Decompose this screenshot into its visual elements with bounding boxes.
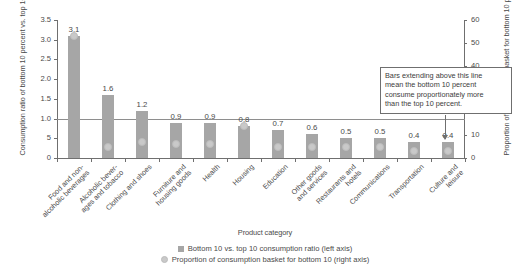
annotation-callout: Bars extending above this line mean the …: [380, 67, 512, 114]
y-axis-left-title-text: Consumption ratio of bottom 10 percent v…: [18, 0, 27, 156]
y-left-tick-label: 1.5: [29, 94, 51, 103]
x-axis-category-label: Housing: [189, 163, 256, 230]
data-point-dot: [240, 122, 248, 130]
y-right-tick: [464, 43, 467, 44]
y-left-tick: [54, 59, 57, 60]
bar-value-label: 0.4: [434, 131, 462, 140]
bar-value-label: 1.2: [128, 100, 156, 109]
y-left-tick-label: 0: [29, 153, 51, 162]
y-right-tick-label: 10: [471, 130, 493, 139]
x-axis-tick: [159, 159, 160, 162]
bar-value-label: 0.5: [332, 127, 360, 136]
x-axis-tick: [431, 159, 432, 162]
legend-label-dots: Proportion of consumption basket for bot…: [172, 255, 370, 264]
bar-value-label: 0.9: [162, 112, 190, 121]
data-point-dot: [274, 143, 282, 151]
x-axis-tick: [363, 159, 364, 162]
x-axis-tick: [295, 159, 296, 162]
x-axis-tick: [465, 159, 466, 162]
y-left-tick: [54, 99, 57, 100]
bar-value-label: 0.9: [196, 112, 224, 121]
legend-square-icon: [178, 246, 184, 252]
bar: [68, 36, 80, 158]
chart-legend: Bottom 10 vs. top 10 consumption ratio (…: [0, 243, 530, 265]
x-axis-tick: [329, 159, 330, 162]
y-left-tick: [54, 138, 57, 139]
y-left-tick-label: 2.0: [29, 74, 51, 83]
legend-label-bars: Bottom 10 vs. top 10 consumption ratio (…: [188, 244, 353, 253]
x-axis-tick: [91, 159, 92, 162]
y-right-tick: [464, 135, 467, 136]
legend-item-bars: Bottom 10 vs. top 10 consumption ratio (…: [0, 243, 530, 254]
y-axis-left-title: Consumption ratio of bottom 10 percent v…: [18, 6, 27, 156]
y-left-tick: [54, 79, 57, 80]
plot-area: 051.01.52.02.53.03.5 0102030405060 3.11.…: [57, 20, 465, 158]
y-left-tick: [54, 40, 57, 41]
y-left-tick-label: 5: [29, 133, 51, 142]
x-axis-tick: [125, 159, 126, 162]
y-right-tick-label: 60: [471, 15, 493, 24]
y-left-tick-label: 1.0: [29, 114, 51, 123]
legend-item-dots: Proportion of consumption basket for bot…: [0, 254, 530, 265]
bar-value-label: 0.6: [298, 123, 326, 132]
y-left-tick-label: 3.0: [29, 35, 51, 44]
x-axis-tick: [397, 159, 398, 162]
x-axis-category-label: Culture and leisure: [393, 163, 466, 236]
bar: [136, 111, 148, 158]
bar-value-label: 0.7: [264, 119, 292, 128]
annotation-line-4: than the top 10 percent.: [385, 99, 507, 108]
y-right-tick-label: 0: [471, 153, 493, 162]
y-left-tick-label: 2.5: [29, 54, 51, 63]
data-point-dot: [138, 138, 146, 146]
y-right-tick: [464, 20, 467, 21]
x-axis-tick: [227, 159, 228, 162]
y-left-tick: [54, 20, 57, 21]
data-point-dot: [342, 143, 350, 151]
annotation-line-1: Bars extending above this line: [385, 71, 507, 80]
annotation-arrow-icon: [442, 135, 448, 140]
data-point-dot: [308, 143, 316, 151]
axis-line-left: [57, 20, 58, 158]
x-axis-tick: [261, 159, 262, 162]
annotation-line-3: consume proportionately more: [385, 90, 507, 99]
legend-dot-icon: [161, 256, 168, 263]
x-axis-tick: [57, 159, 58, 162]
x-axis-tick: [193, 159, 194, 162]
annotation-line-2: mean the bottom 10 percent: [385, 80, 507, 89]
data-point-dot: [376, 143, 384, 151]
bar-value-label: 0.5: [366, 127, 394, 136]
reference-line: [57, 119, 465, 120]
y-right-tick-label: 50: [471, 38, 493, 47]
bar: [238, 126, 250, 158]
y-left-tick-label: 3.5: [29, 15, 51, 24]
bar-value-label: 0.4: [400, 131, 428, 140]
chart-container: Consumption ratio of bottom 10 percent v…: [0, 0, 530, 279]
bar-value-label: 1.6: [94, 84, 122, 93]
data-point-dot: [104, 143, 112, 151]
